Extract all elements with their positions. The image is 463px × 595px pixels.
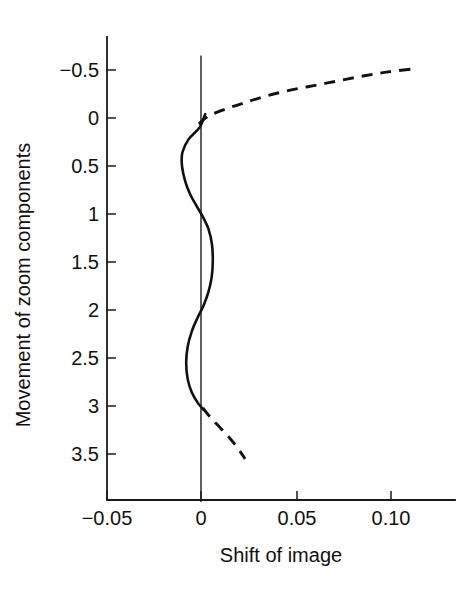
y-tick-label: 3 — [88, 395, 99, 417]
y-tick-labels: −0.5 0 0.5 1 1.5 2 2.5 3 3.5 — [60, 59, 99, 465]
y-tick-label: 1 — [88, 203, 99, 225]
chart-figure: −0.5 0 0.5 1 1.5 2 2.5 3 3.5 −0.05 0 0.0… — [0, 0, 463, 595]
y-tick-label: 3.5 — [71, 443, 99, 465]
axis-spines — [107, 37, 455, 500]
x-tick-label: 0.10 — [372, 507, 411, 529]
y-axis-ticks — [107, 70, 116, 454]
y-tick-label: 1.5 — [71, 251, 99, 273]
dashed-lower-branch — [203, 408, 245, 459]
solid-oscillating-branch — [182, 114, 213, 410]
x-tick-label: 0.05 — [278, 507, 317, 529]
y-tick-label: 0 — [88, 107, 99, 129]
y-tick-label: 2 — [88, 299, 99, 321]
y-tick-label: 2.5 — [71, 347, 99, 369]
x-tick-labels: −0.05 0 0.05 0.10 — [82, 507, 411, 529]
chart-plot-area: −0.5 0 0.5 1 1.5 2 2.5 3 3.5 −0.05 0 0.0… — [0, 0, 463, 595]
x-tick-label: −0.05 — [82, 507, 133, 529]
x-tick-label: 0 — [195, 507, 206, 529]
x-axis-ticks — [107, 491, 391, 500]
x-axis-title: Shift of image — [220, 544, 342, 566]
dashed-upper-branch — [199, 69, 412, 124]
y-tick-label: 0.5 — [71, 155, 99, 177]
y-axis-title: Movement of zoom components — [12, 143, 34, 428]
y-tick-label: −0.5 — [60, 59, 99, 81]
